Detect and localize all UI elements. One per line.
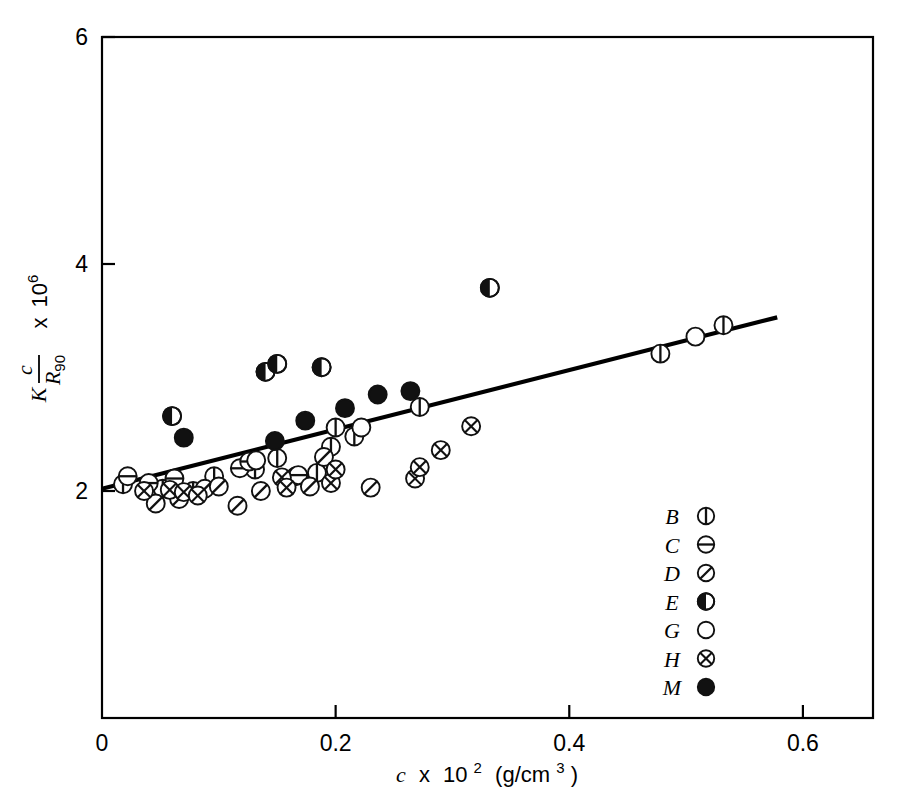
data-point-G xyxy=(247,451,265,469)
data-point-D xyxy=(301,477,319,495)
data-point-E xyxy=(481,279,499,297)
yaxis-den: R xyxy=(40,371,65,386)
x-tick-label: 0.2 xyxy=(320,730,352,756)
xaxis-var: c xyxy=(396,762,406,787)
y-tick-label: 2 xyxy=(75,478,88,504)
xaxis-times: x xyxy=(419,762,430,787)
yaxis-exp: 6 xyxy=(24,275,41,283)
data-point-H xyxy=(411,458,429,476)
legend-label-C: C xyxy=(665,533,680,558)
xaxis-units-exp: 3 xyxy=(556,759,564,776)
legend-marker-B xyxy=(698,508,714,524)
figure-background xyxy=(0,0,920,812)
data-point-G xyxy=(352,418,370,436)
y-tick-label: 6 xyxy=(75,24,88,50)
yaxis-den-sub: 90 xyxy=(51,355,68,372)
xaxis-units: (g/cm xyxy=(495,762,550,787)
svg-text:c: c xyxy=(12,365,37,375)
data-point-M xyxy=(336,399,354,417)
chart-figure: 00.20.40.6 246 BCDEGHM c x 10 2 (g/cm 3 … xyxy=(0,0,920,812)
y-tick-label: 4 xyxy=(75,251,88,277)
xaxis-base: 10 xyxy=(443,762,467,787)
data-point-B xyxy=(268,449,286,467)
data-point-B xyxy=(714,316,732,334)
legend-marker-D xyxy=(698,565,714,581)
legend-marker-E xyxy=(698,593,714,609)
legend-label-D: D xyxy=(663,561,680,586)
data-point-D xyxy=(210,477,228,495)
data-point-D xyxy=(229,497,247,515)
legend-label-G: G xyxy=(664,618,680,643)
data-point-C xyxy=(119,467,137,485)
data-point-M xyxy=(296,412,314,430)
legend-marker-H xyxy=(698,650,714,666)
legend-label-M: M xyxy=(662,675,683,700)
svg-text:x: x xyxy=(27,318,52,329)
data-point-M xyxy=(369,386,387,404)
x-tick-label: 0 xyxy=(96,730,109,756)
data-point-H xyxy=(432,441,450,459)
data-point-D xyxy=(252,482,270,500)
data-point-E xyxy=(163,407,181,425)
data-point-B xyxy=(327,418,345,436)
legend-label-B: B xyxy=(665,504,678,529)
data-point-H xyxy=(278,479,296,497)
data-point-D xyxy=(362,479,380,497)
data-point-M xyxy=(266,432,284,450)
data-point-H xyxy=(327,460,345,478)
legend-marker-C xyxy=(698,536,714,552)
yaxis-base: 10 xyxy=(27,283,52,307)
data-point-B xyxy=(651,345,669,363)
data-point-H xyxy=(462,417,480,435)
data-point-M xyxy=(401,382,419,400)
data-point-G xyxy=(686,328,704,346)
data-point-H xyxy=(189,487,207,505)
svg-text:K: K xyxy=(26,386,51,403)
data-point-E xyxy=(268,355,286,373)
yaxis-times: x xyxy=(27,318,52,329)
legend-label-E: E xyxy=(664,590,679,615)
data-point-H xyxy=(135,482,153,500)
yaxis-num: c xyxy=(12,365,37,375)
x-tick-label: 0.6 xyxy=(787,730,819,756)
xaxis-exp: 2 xyxy=(474,759,482,776)
legend-marker-G xyxy=(698,622,714,638)
legend-marker-M xyxy=(698,679,714,695)
data-point-M xyxy=(175,429,193,447)
scatter-plot: 00.20.40.6 246 BCDEGHM c x 10 2 (g/cm 3 … xyxy=(0,0,920,812)
data-point-E xyxy=(313,358,331,376)
data-point-B xyxy=(411,398,429,416)
legend-label-H: H xyxy=(663,647,681,672)
xaxis-units-close: ) xyxy=(571,762,578,787)
yaxis-k: K xyxy=(26,386,51,403)
